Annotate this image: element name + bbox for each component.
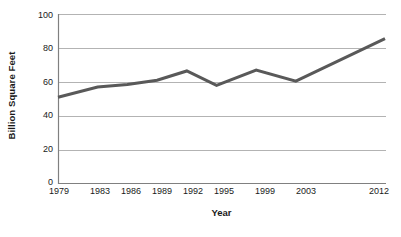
line-chart-figure: Billion Square Feet 100 80 60 40 20 0 xyxy=(0,0,401,237)
x-tick-label-2012: 2012 xyxy=(369,186,389,197)
x-tick-label-1983: 1983 xyxy=(90,186,110,197)
x-tick-label-2003: 2003 xyxy=(296,186,316,197)
x-tick-label-1979: 1979 xyxy=(49,186,69,197)
y-tick-label-40: 40 xyxy=(27,110,53,120)
y-axis-tick-labels: 100 80 60 40 20 0 xyxy=(24,0,53,190)
x-axis-title-text: Year xyxy=(211,207,231,218)
y-axis-title: Billion Square Feet xyxy=(0,0,24,190)
x-tick-label-1989: 1989 xyxy=(152,186,172,197)
x-axis-title: Year xyxy=(58,207,385,218)
y-tick-label-20: 20 xyxy=(27,144,53,154)
plot-area xyxy=(57,14,386,184)
data-series-line xyxy=(58,39,385,98)
y-tick-label-80: 80 xyxy=(27,43,53,53)
y-axis-title-text: Billion Square Feet xyxy=(7,51,18,139)
x-tick-label-1995: 1995 xyxy=(214,186,234,197)
x-tick-label-1999: 1999 xyxy=(255,186,275,197)
x-tick-label-1992: 1992 xyxy=(183,186,203,197)
x-tick-label-1986: 1986 xyxy=(121,186,141,197)
y-tick-label-60: 60 xyxy=(27,77,53,87)
x-axis-tick-labels: 1979 1983 1986 1989 1992 1995 1999 2003 … xyxy=(0,186,401,200)
plot-svg xyxy=(57,14,386,184)
y-tick-label-100: 100 xyxy=(27,10,53,20)
